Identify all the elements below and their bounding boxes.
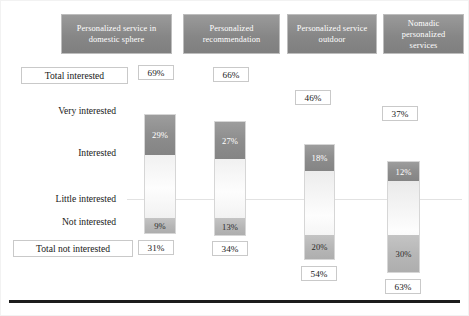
value-box-total-interested-3: 46% xyxy=(295,90,331,105)
row-label-total-not-interested-text: Total not interested xyxy=(36,243,110,254)
row-label-total-not-interested: Total not interested xyxy=(13,240,133,257)
value-box-total-not-interested-3: 54% xyxy=(301,266,337,281)
row-label-very-interested-text: Very interested xyxy=(58,105,116,116)
bar-column-2: 27% 13% xyxy=(214,121,246,236)
column-header-3-label: Personalized service outdoor xyxy=(291,23,373,45)
chart-figure: Personalized service in domestic sphere … xyxy=(0,0,469,316)
column-header-1-label: Personalized service in domestic sphere xyxy=(65,23,168,45)
bar-segment-very-interested-2: 27% xyxy=(215,122,245,159)
row-label-not-interested: Not interested xyxy=(21,216,116,227)
column-header-1: Personalized service in domestic sphere xyxy=(61,14,172,54)
row-label-little-interested-text: Little interested xyxy=(56,193,116,204)
bar-segment-not-interested-4: 30% xyxy=(388,235,419,272)
value-box-total-not-interested-1: 31% xyxy=(138,240,174,255)
bar-segment-very-interested-1: 29% xyxy=(145,115,175,155)
column-header-4: Nomadic personalized services xyxy=(383,14,464,54)
bar-segment-very-interested-4: 12% xyxy=(388,162,419,181)
value-box-total-interested-4: 37% xyxy=(382,106,418,121)
column-header-2: Personalized recommendation xyxy=(183,14,280,54)
row-label-very-interested: Very interested xyxy=(21,105,116,116)
bar-segment-not-interested-1: 9% xyxy=(145,218,175,233)
column-header-2-label: Personalized recommendation xyxy=(187,23,276,45)
bottom-rule xyxy=(9,300,460,303)
row-label-total-interested-text: Total interested xyxy=(45,70,104,81)
value-box-total-interested-2: 66% xyxy=(213,67,249,82)
row-label-not-interested-text: Not interested xyxy=(62,216,116,227)
bar-column-1: 29% 9% xyxy=(144,114,176,234)
value-box-total-not-interested-2: 34% xyxy=(212,241,248,256)
column-header-4-label: Nomadic personalized services xyxy=(387,18,460,51)
bar-column-4: 12% 30% xyxy=(387,161,420,273)
row-label-interested: Interested xyxy=(21,147,116,158)
row-label-interested-text: Interested xyxy=(78,147,116,158)
bar-segment-not-interested-3: 20% xyxy=(305,235,334,259)
row-label-little-interested: Little interested xyxy=(21,193,116,204)
bar-column-3: 18% 20% xyxy=(304,144,335,260)
value-box-total-interested-1: 69% xyxy=(138,65,174,80)
column-header-3: Personalized service outdoor xyxy=(287,14,377,54)
bar-segment-very-interested-3: 18% xyxy=(305,145,334,171)
bar-segment-not-interested-2: 13% xyxy=(215,218,245,235)
row-label-total-interested: Total interested xyxy=(21,67,128,84)
value-box-total-not-interested-4: 63% xyxy=(385,279,421,294)
